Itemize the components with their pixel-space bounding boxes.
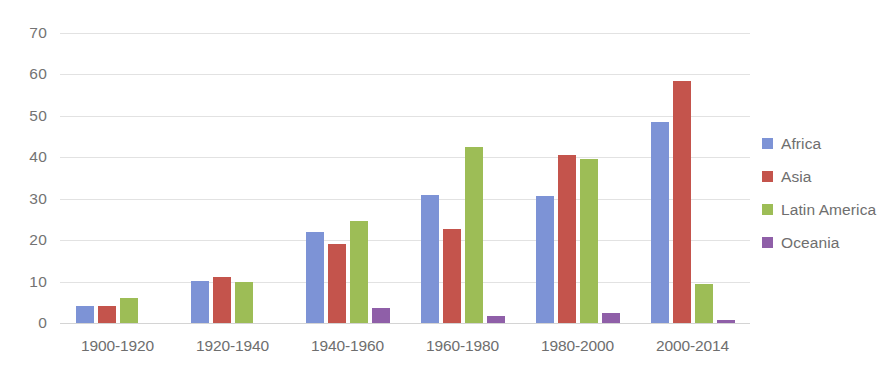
x-tick-label: 1900-1920 (60, 337, 175, 355)
bar-group (520, 33, 635, 323)
legend-label: Oceania (781, 234, 839, 252)
bar (213, 277, 231, 323)
legend-label: Asia (781, 168, 812, 186)
y-tick-label: 40 (29, 148, 47, 166)
bar (602, 313, 620, 323)
bar (651, 122, 669, 323)
legend-item[interactable]: Asia (762, 160, 892, 193)
bar (558, 155, 576, 323)
bar (421, 195, 439, 323)
y-tick-label: 50 (29, 107, 47, 125)
bar (235, 282, 253, 323)
gridline (60, 323, 750, 324)
legend-item[interactable]: Africa (762, 127, 892, 160)
bar-group (405, 33, 520, 323)
legend-label: Africa (781, 135, 821, 153)
chart-legend: AfricaAsiaLatin AmericaOceania (762, 127, 892, 259)
bar (98, 306, 116, 323)
bar (306, 232, 324, 323)
y-tick-label: 20 (29, 231, 47, 249)
y-tick-label: 10 (29, 273, 47, 291)
legend-swatch-icon (762, 204, 773, 215)
bar (120, 298, 138, 323)
bar-group (60, 33, 175, 323)
bar-group (635, 33, 750, 323)
legend-swatch-icon (762, 138, 773, 149)
legend-swatch-icon (762, 237, 773, 248)
bar (191, 281, 209, 323)
x-tick-label: 1960-1980 (405, 337, 520, 355)
bar (443, 229, 461, 323)
bar (465, 147, 483, 323)
x-axis: 1900-19201920-19401940-19601960-19801980… (60, 337, 750, 365)
bar (536, 196, 554, 323)
legend-item[interactable]: Latin America (762, 193, 892, 226)
x-tick-label: 1920-1940 (175, 337, 290, 355)
bar-group (175, 33, 290, 323)
x-tick-label: 1980-2000 (520, 337, 635, 355)
bar (695, 284, 713, 323)
x-tick-label: 1940-1960 (290, 337, 405, 355)
legend-label: Latin America (781, 201, 876, 219)
bar-chart: 010203040506070 1900-19201920-19401940-1… (0, 0, 895, 370)
y-tick-label: 30 (29, 190, 47, 208)
bar-group (290, 33, 405, 323)
y-axis: 010203040506070 (0, 0, 60, 370)
bar (673, 81, 691, 323)
legend-swatch-icon (762, 171, 773, 182)
bar (487, 316, 505, 323)
y-tick-label: 70 (29, 24, 47, 42)
y-tick-label: 0 (38, 314, 47, 332)
bar (76, 306, 94, 323)
legend-item[interactable]: Oceania (762, 226, 892, 259)
bar (580, 159, 598, 323)
x-tick-label: 2000-2014 (635, 337, 750, 355)
bar (372, 308, 390, 323)
bar (717, 320, 735, 323)
bar (350, 221, 368, 323)
plot-area (60, 33, 750, 323)
y-tick-label: 60 (29, 65, 47, 83)
bar (328, 244, 346, 323)
